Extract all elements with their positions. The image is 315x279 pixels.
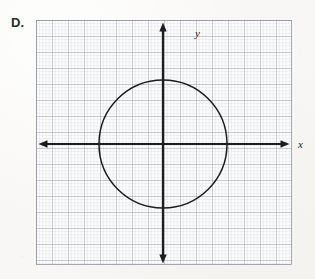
axes-and-curve: [36, 20, 292, 265]
choice-label-d: D.: [11, 16, 24, 29]
graph-plate: y: [36, 20, 292, 265]
x-axis-label: x: [298, 139, 303, 150]
y-axis-label: y: [195, 28, 200, 39]
worksheet-page: D.: [0, 0, 315, 279]
